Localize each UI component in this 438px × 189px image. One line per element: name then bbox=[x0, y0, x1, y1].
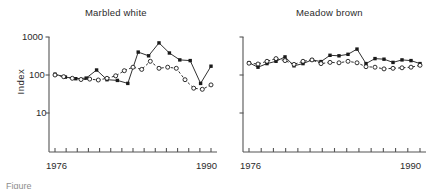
data-point-open-circle bbox=[382, 67, 386, 71]
data-point-open-circle bbox=[200, 87, 204, 91]
data-point-open-circle bbox=[418, 63, 422, 67]
data-point-filled-square bbox=[147, 54, 150, 57]
data-point-open-circle bbox=[274, 57, 278, 61]
data-point-open-circle bbox=[247, 61, 251, 65]
data-point-open-circle bbox=[265, 59, 269, 63]
plot-canvas bbox=[0, 0, 438, 189]
data-point-open-circle bbox=[122, 69, 126, 73]
data-point-open-circle bbox=[114, 74, 118, 78]
data-point-filled-square bbox=[409, 59, 412, 62]
data-point-open-circle bbox=[192, 86, 196, 90]
data-point-filled-square bbox=[283, 55, 286, 58]
data-point-open-circle bbox=[283, 59, 287, 63]
data-point-filled-square bbox=[95, 68, 98, 71]
data-point-open-circle bbox=[131, 65, 135, 69]
data-point-open-circle bbox=[409, 65, 413, 69]
data-point-filled-square bbox=[382, 58, 385, 61]
data-point-open-circle bbox=[346, 59, 350, 63]
data-point-open-circle bbox=[373, 65, 377, 69]
data-point-open-circle bbox=[355, 61, 359, 65]
data-point-open-circle bbox=[88, 77, 92, 81]
data-point-filled-square bbox=[199, 82, 202, 85]
data-point-filled-square bbox=[157, 41, 160, 44]
data-point-open-circle bbox=[148, 59, 152, 63]
data-point-filled-square bbox=[355, 47, 358, 50]
data-point-filled-square bbox=[116, 79, 119, 82]
data-point-filled-square bbox=[126, 82, 129, 85]
data-point-open-circle bbox=[174, 66, 178, 70]
data-point-open-circle bbox=[105, 76, 109, 80]
data-point-filled-square bbox=[346, 53, 349, 56]
data-point-open-circle bbox=[157, 66, 161, 70]
data-point-filled-square bbox=[337, 54, 340, 57]
data-point-open-circle bbox=[364, 65, 368, 69]
data-point-open-circle bbox=[391, 66, 395, 70]
data-point-filled-square bbox=[189, 59, 192, 62]
data-point-open-circle bbox=[140, 67, 144, 71]
data-point-open-circle bbox=[400, 66, 404, 70]
data-point-filled-square bbox=[168, 51, 171, 54]
data-point-filled-square bbox=[137, 50, 140, 53]
data-point-filled-square bbox=[373, 57, 376, 60]
data-point-open-circle bbox=[310, 58, 314, 62]
data-point-open-circle bbox=[292, 62, 296, 66]
data-point-open-circle bbox=[209, 83, 213, 87]
data-point-open-circle bbox=[183, 78, 187, 82]
data-point-filled-square bbox=[328, 54, 331, 57]
data-point-filled-square bbox=[178, 58, 181, 61]
data-point-open-circle bbox=[337, 61, 341, 65]
figure-container: Marbled white Meadow brown 1000 100 10 I… bbox=[0, 0, 438, 189]
data-point-open-circle bbox=[301, 59, 305, 63]
data-point-open-circle bbox=[166, 65, 170, 69]
data-point-filled-square bbox=[209, 65, 212, 68]
data-point-filled-square bbox=[391, 61, 394, 64]
data-point-open-circle bbox=[319, 62, 323, 66]
data-point-open-circle bbox=[62, 75, 66, 79]
figure-caption: Figure bbox=[6, 181, 436, 189]
data-point-filled-square bbox=[400, 58, 403, 61]
data-point-open-circle bbox=[328, 60, 332, 64]
data-point-open-circle bbox=[70, 76, 74, 80]
data-point-open-circle bbox=[79, 78, 83, 82]
data-point-open-circle bbox=[96, 78, 100, 82]
data-point-open-circle bbox=[53, 73, 57, 77]
data-point-open-circle bbox=[256, 62, 260, 66]
series-line-filled-square-series bbox=[55, 43, 211, 84]
